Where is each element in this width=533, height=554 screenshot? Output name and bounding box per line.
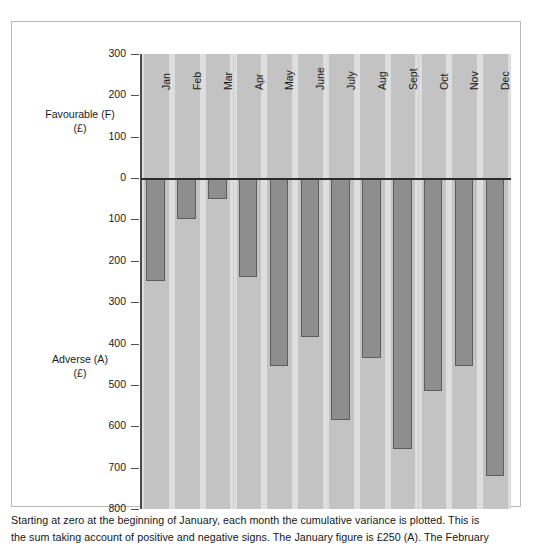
month-labels: JanFebMarAprMayJuneJulyAugSeptOctNovDec bbox=[12, 22, 520, 506]
figure-page: 3002001000100200300400500600700800 Favou… bbox=[0, 0, 533, 554]
month-label-may: May bbox=[283, 70, 295, 90]
caption-line-1: Starting at zero at the beginning of Jan… bbox=[11, 512, 523, 529]
month-label-apr: Apr bbox=[253, 74, 265, 90]
month-label-aug: Aug bbox=[376, 71, 388, 90]
month-label-dec: Dec bbox=[499, 71, 511, 90]
caption-line-2: the sum taking account of positive and n… bbox=[11, 529, 523, 546]
month-label-mar: Mar bbox=[222, 72, 234, 90]
month-label-oct: Oct bbox=[438, 74, 450, 90]
month-label-june: June bbox=[314, 67, 326, 90]
chart-figure-box: 3002001000100200300400500600700800 Favou… bbox=[11, 21, 521, 507]
month-label-july: July bbox=[345, 71, 357, 90]
month-label-nov: Nov bbox=[468, 71, 480, 90]
month-label-sept: Sept bbox=[407, 68, 419, 90]
month-label-jan: Jan bbox=[160, 73, 172, 90]
figure-caption: Starting at zero at the beginning of Jan… bbox=[11, 512, 523, 545]
y-tick-mark bbox=[131, 509, 139, 510]
month-label-feb: Feb bbox=[191, 72, 203, 90]
